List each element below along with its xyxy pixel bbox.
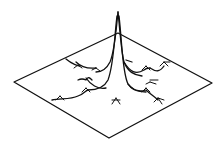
central-peak [88, 12, 146, 92]
left-branches [52, 59, 106, 100]
diagram-canvas [0, 0, 224, 150]
center-cusp-mark [112, 98, 120, 104]
right-branches [124, 60, 170, 104]
